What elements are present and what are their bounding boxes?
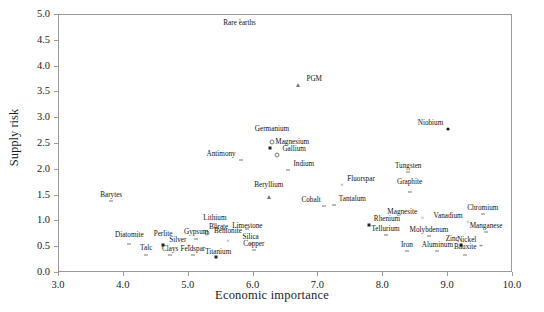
y-tick-mark bbox=[54, 195, 58, 196]
data-point-marker bbox=[463, 255, 467, 256]
data-point-marker bbox=[296, 83, 300, 87]
data-point-marker bbox=[269, 147, 272, 150]
data-point-label: Copper bbox=[243, 241, 264, 249]
x-tick-mark bbox=[382, 272, 383, 276]
data-point-label: Silver bbox=[169, 237, 186, 245]
data-point-marker bbox=[427, 235, 431, 236]
y-tick-label: 4.0 bbox=[0, 61, 50, 72]
data-point-label: Vanadium bbox=[434, 213, 463, 221]
data-point-label: Lithium bbox=[203, 215, 226, 223]
data-point-label: Indium bbox=[293, 161, 314, 169]
data-point-label: PGM bbox=[306, 76, 322, 84]
data-point-marker bbox=[406, 172, 410, 173]
data-point-marker bbox=[405, 251, 409, 252]
data-point-label: Gallium bbox=[282, 146, 306, 154]
data-point-label: Bauxite bbox=[454, 244, 476, 252]
data-point-label: Titanium bbox=[205, 249, 231, 257]
data-point-marker bbox=[127, 243, 131, 244]
data-point-marker bbox=[194, 239, 198, 240]
data-point-marker bbox=[252, 250, 256, 251]
y-tick-mark bbox=[54, 14, 58, 15]
data-point-marker bbox=[408, 192, 412, 193]
data-point-marker bbox=[368, 223, 371, 226]
data-point-label: Beryllium bbox=[254, 182, 283, 190]
data-point-label: Cobalt bbox=[301, 197, 320, 205]
data-point-label: Tungsten bbox=[395, 163, 422, 171]
x-tick-mark bbox=[188, 272, 189, 276]
data-point-marker bbox=[270, 139, 275, 144]
data-point-marker bbox=[144, 255, 148, 256]
data-point-marker: + bbox=[479, 243, 483, 250]
data-point-marker: × bbox=[421, 214, 424, 221]
data-point-label: Fluorspar bbox=[347, 176, 375, 184]
y-tick-label: 1.0 bbox=[0, 215, 50, 226]
y-tick-label: 5.0 bbox=[0, 9, 50, 20]
y-tick-mark bbox=[54, 117, 58, 118]
x-tick-mark bbox=[317, 272, 318, 276]
x-tick-mark bbox=[447, 272, 448, 276]
y-tick-mark bbox=[54, 220, 58, 221]
y-tick-mark bbox=[54, 169, 58, 170]
data-point-label: Manganese bbox=[470, 223, 503, 231]
data-point-marker bbox=[435, 251, 439, 252]
data-point-marker bbox=[384, 234, 388, 235]
x-axis-title: Economic importance bbox=[0, 288, 544, 303]
x-tick-mark bbox=[123, 272, 124, 276]
data-point-label: Bentonite bbox=[214, 228, 242, 236]
data-point-label: Talc bbox=[140, 245, 152, 253]
data-point-label: Aluminum bbox=[422, 242, 453, 250]
data-point-label: Germanium bbox=[255, 126, 289, 134]
y-axis-title: Supply risk bbox=[7, 78, 22, 198]
data-point-label: Iron bbox=[401, 242, 413, 250]
data-point-marker bbox=[275, 153, 280, 158]
data-point-marker bbox=[109, 201, 113, 202]
data-point-label: Clays bbox=[162, 246, 178, 254]
x-tick-mark bbox=[58, 272, 59, 276]
data-point-label: Niobium bbox=[418, 120, 444, 128]
y-tick-mark bbox=[54, 91, 58, 92]
data-point-marker bbox=[484, 231, 488, 232]
y-tick-label: 0.0 bbox=[0, 267, 50, 278]
data-point-label: Tellurium bbox=[371, 226, 399, 234]
data-point-label: Rhenium bbox=[374, 216, 400, 224]
data-point-marker bbox=[286, 170, 290, 171]
data-point-marker bbox=[191, 254, 195, 255]
data-point-label: Antimony bbox=[207, 151, 236, 159]
data-point-label: Rare earths bbox=[223, 20, 256, 28]
data-point-label: Tantalum bbox=[339, 196, 366, 204]
data-point-marker: × bbox=[340, 182, 343, 189]
data-point-label: Diatomite bbox=[115, 232, 144, 240]
data-point-marker bbox=[332, 204, 336, 205]
data-point-marker bbox=[447, 127, 450, 130]
data-point-label: Gypsum bbox=[184, 229, 208, 237]
y-tick-mark bbox=[54, 246, 58, 247]
y-tick-mark bbox=[54, 40, 58, 41]
data-point-marker bbox=[481, 214, 485, 215]
y-tick-mark bbox=[54, 143, 58, 144]
data-point-label: Graphite bbox=[397, 179, 422, 187]
y-tick-label: 0.5 bbox=[0, 241, 50, 252]
data-point-marker bbox=[168, 254, 172, 255]
data-point-label: Molybdenum bbox=[410, 227, 449, 235]
data-point-label: Chromium bbox=[467, 205, 498, 213]
data-point-label: Feldspar bbox=[181, 246, 206, 254]
x-tick-mark bbox=[512, 272, 513, 276]
data-point-marker bbox=[322, 205, 326, 206]
scatter-chart-figure: 0.00.51.01.52.02.53.03.54.04.55.0 3.04.0… bbox=[0, 0, 544, 312]
y-tick-label: 4.5 bbox=[0, 35, 50, 46]
data-point-label: Barytes bbox=[100, 192, 122, 200]
data-point-marker bbox=[267, 195, 271, 199]
y-tick-mark bbox=[54, 66, 58, 67]
x-tick-mark bbox=[253, 272, 254, 276]
data-point-marker: × bbox=[226, 238, 229, 245]
data-point-marker bbox=[239, 159, 243, 160]
